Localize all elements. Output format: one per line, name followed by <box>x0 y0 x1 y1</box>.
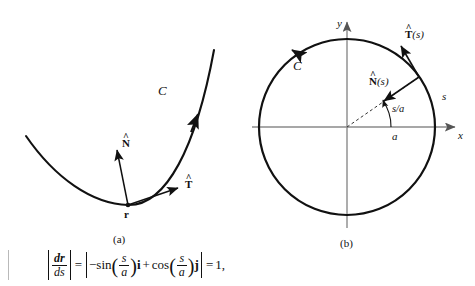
fraction-numerator: dr <box>52 252 67 265</box>
radius-label-a: a <box>392 131 398 142</box>
normal-vector-arrow-b <box>384 77 419 101</box>
tangent-arg-b: (s) <box>412 28 424 40</box>
cos-arg-denominator: a <box>177 265 187 279</box>
caption-b: (b) <box>340 238 353 249</box>
normal-arg-b: (s) <box>377 75 389 87</box>
tangent-vector-arrow-b <box>401 46 419 77</box>
cos-arg-numerator: s <box>178 252 187 265</box>
tangent-hat-wrap-a: ^ T <box>185 179 192 190</box>
normal-hat-b: ^ <box>370 70 376 80</box>
sin-argument-fraction: s a <box>119 252 129 278</box>
figure-page: C ^ N ^ T r C y x a s s/a ^ N (s) ^ T (s… <box>0 0 475 286</box>
unit-vector-i: i <box>137 257 141 273</box>
cos-argument-fraction: s a <box>177 252 187 278</box>
curve-label-c-panel-b: C <box>293 59 302 72</box>
figure-graphics <box>0 0 475 286</box>
equation-dr-ds: dr ds = − sin ( s a ) i + cos ( s a ) j … <box>46 250 225 280</box>
sin-arg-numerator: s <box>120 252 129 265</box>
curve-label-c-panel-a: C <box>158 84 167 97</box>
panel-b-graphics <box>252 22 455 228</box>
equation-result: 1, <box>215 257 225 273</box>
abs-bar-left-inner <box>86 252 87 278</box>
sin-function: sin <box>96 257 111 273</box>
tangent-hat-a: ^ <box>186 173 192 183</box>
sin-arg-denominator: a <box>119 265 129 279</box>
tangent-vector-label-a: ^ T <box>185 179 192 190</box>
normal-vector-label-a: ^ N <box>122 138 130 149</box>
abs-bar-left-outer <box>48 250 49 280</box>
minus-sign: − <box>89 257 96 273</box>
caption-a: (a) <box>113 234 125 245</box>
plus-sign: + <box>143 257 150 273</box>
fraction-denominator: ds <box>52 265 67 279</box>
point-label-r: r <box>124 209 129 220</box>
equals-sign-2: = <box>206 257 213 273</box>
equals-sign-1: = <box>75 257 82 273</box>
angle-label-s-over-a: s/a <box>392 104 404 115</box>
arclength-label-s: s <box>442 91 446 102</box>
normal-hat-a: ^ <box>123 132 129 142</box>
point-r-dot <box>126 203 131 208</box>
abs-bar-right-outer <box>70 250 71 280</box>
cos-function: cos <box>152 257 169 273</box>
normal-vector-arrow-a <box>117 150 128 205</box>
unit-vector-j: j <box>195 257 199 273</box>
tangent-hat-wrap-b: ^ T <box>405 29 412 40</box>
normal-vector-label-b: ^ N (s) <box>369 76 389 87</box>
tangent-vector-arrow-a <box>128 188 178 205</box>
derivative-fraction: dr ds <box>52 252 67 278</box>
y-axis-label: y <box>337 18 342 29</box>
x-axis-label: x <box>458 130 463 141</box>
normal-hat-wrap-a: ^ N <box>122 138 130 149</box>
tangent-vector-label-b: ^ T (s) <box>405 29 424 40</box>
normal-hat-wrap-b: ^ N <box>369 76 377 87</box>
tangent-hat-b: ^ <box>406 23 412 33</box>
abs-bar-right-inner <box>201 252 202 278</box>
